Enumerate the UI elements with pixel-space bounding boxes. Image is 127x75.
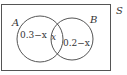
universal-set-label: S: [116, 5, 123, 16]
set-b-only-region: 0.2−x: [63, 38, 90, 48]
set-b-label: B: [89, 14, 97, 25]
intersection-region: x: [51, 32, 56, 42]
set-a-only-region: 0.3−x: [20, 30, 47, 40]
set-a-label: A: [11, 17, 19, 28]
venn-diagram: S A B 0.3−x x 0.2−x: [0, 0, 127, 75]
